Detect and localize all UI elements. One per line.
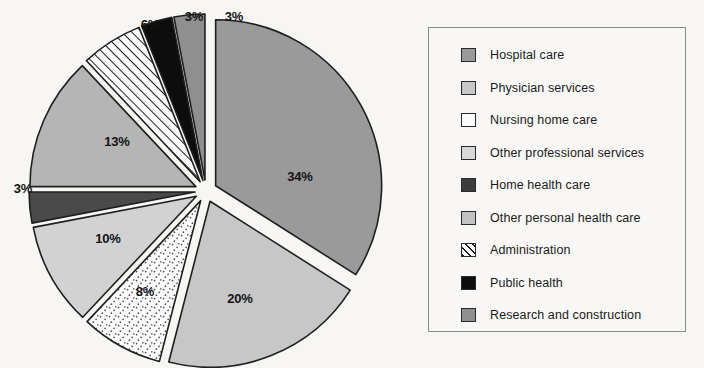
legend-color-swatch-icon — [461, 276, 476, 290]
legend-color-swatch-icon — [461, 113, 476, 127]
chart-legend: Hospital carePhysician servicesNursing h… — [428, 27, 686, 332]
legend-item-label: Administration — [490, 244, 571, 257]
legend-item-label: Nursing home care — [490, 114, 597, 127]
legend-color-swatch-icon — [461, 308, 476, 322]
legend-item-label: Home health care — [490, 179, 590, 192]
legend-color-swatch-icon — [461, 48, 476, 62]
legend-item[interactable]: Research and construction — [461, 299, 683, 332]
legend-color-swatch-icon — [461, 146, 476, 160]
legend-item[interactable]: Hospital care — [461, 39, 683, 72]
legend-item-label: Physician services — [490, 82, 595, 95]
pie-slices — [29, 14, 382, 367]
legend-color-swatch-icon — [461, 211, 476, 225]
legend-color-swatch-icon — [461, 178, 476, 192]
legend-item-label: Other personal health care — [490, 212, 641, 225]
pie-chart-svg — [0, 0, 420, 368]
legend-item-label: Other professional services — [490, 147, 644, 160]
legend-item-label: Research and construction — [490, 309, 641, 322]
legend-item[interactable]: Nursing home care — [461, 104, 683, 137]
legend-item-label: Public health — [490, 277, 563, 290]
legend-color-swatch-icon — [461, 81, 476, 95]
legend-item[interactable]: Other personal health care — [461, 202, 683, 235]
legend-item[interactable]: Administration — [461, 234, 683, 267]
legend-item[interactable]: Public health — [461, 267, 683, 300]
pie-chart-figure: 34%20%8%10%3%13%6%3%3% Hospital carePhys… — [0, 0, 704, 368]
legend-item[interactable]: Home health care — [461, 169, 683, 202]
legend-color-swatch-icon — [461, 243, 476, 257]
legend-item[interactable]: Physician services — [461, 72, 683, 105]
legend-item-list: Hospital carePhysician servicesNursing h… — [461, 39, 683, 332]
legend-item-label: Hospital care — [490, 49, 564, 62]
legend-item[interactable]: Other professional services — [461, 137, 683, 170]
pie-chart-plot: 34%20%8%10%3%13%6%3%3% — [0, 0, 420, 368]
